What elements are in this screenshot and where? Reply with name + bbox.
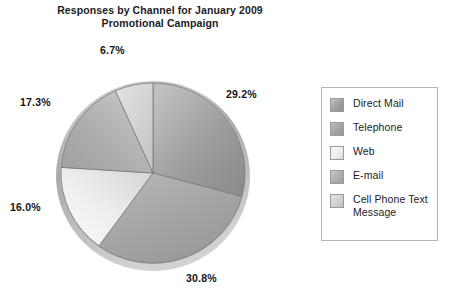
pie-chart — [54, 76, 252, 272]
legend-swatch-icon-cell-phone-text-message — [330, 194, 344, 208]
legend-item-web: Web — [330, 145, 431, 160]
legend-label-direct-mail: Direct Mail — [353, 97, 404, 110]
page-title: Responses by Channel for January 2009 Pr… — [0, 4, 320, 30]
legend-label-telephone: Telephone — [353, 121, 402, 134]
legend-swatch-icon-direct-mail — [330, 98, 344, 112]
legend-swatch-icon-telephone — [330, 122, 344, 136]
legend-label-cell-phone-text-message: Cell Phone Text Message — [353, 193, 431, 219]
chart-legend: Direct Mail Telephone Web E-mail Cell Ph… — [321, 87, 438, 241]
legend-swatch-icon-web — [330, 146, 344, 160]
pie-label-email: 17.3% — [20, 96, 51, 108]
legend-item-cell-phone-text-message: Cell Phone Text Message — [330, 193, 431, 219]
legend-item-direct-mail: Direct Mail — [330, 97, 431, 112]
pie-label-direct-mail: 29.2% — [226, 88, 257, 100]
legend-label-web: Web — [353, 145, 375, 158]
pie-label-web: 16.0% — [10, 201, 41, 213]
chart-title-line-1: Responses by Channel for January 2009 — [0, 4, 320, 17]
legend-swatch-icon-email — [330, 170, 344, 184]
legend-item-email: E-mail — [330, 169, 431, 184]
pie-chart-figure: Responses by Channel for January 2009 Pr… — [0, 0, 450, 296]
pie-chart-svg — [54, 76, 252, 272]
legend-item-telephone: Telephone — [330, 121, 431, 136]
legend-label-email: E-mail — [353, 169, 383, 182]
pie-slices — [61, 83, 245, 263]
pie-label-cell-phone-text-message: 6.7% — [100, 44, 125, 56]
chart-title-line-2: Promotional Campaign — [0, 17, 320, 30]
pie-label-telephone: 30.8% — [186, 272, 217, 284]
